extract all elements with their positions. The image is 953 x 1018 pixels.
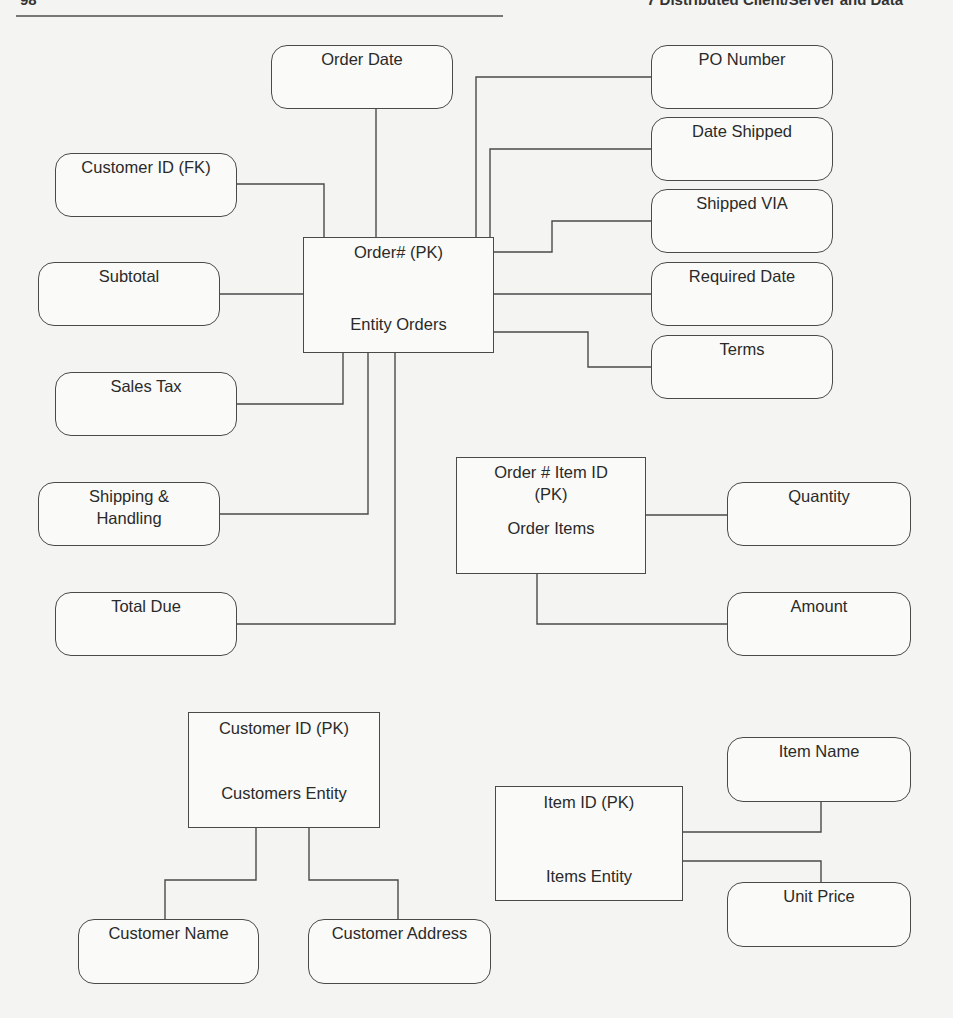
entity-key: Order# (PK) — [304, 242, 493, 262]
attribute-label: Total Due — [111, 597, 181, 615]
attribute-sales-tax[interactable]: Sales Tax — [55, 372, 237, 436]
attribute-total-due[interactable]: Total Due — [55, 592, 237, 656]
attribute-label: Sales Tax — [110, 377, 181, 395]
attribute-amount[interactable]: Amount — [727, 592, 911, 656]
connector-po-number — [476, 77, 651, 237]
attribute-date-shipped[interactable]: Date Shipped — [651, 117, 833, 181]
attribute-label: Customer Address — [332, 924, 468, 942]
attribute-label: Terms — [720, 340, 765, 358]
entity-key: Item ID (PK) — [496, 792, 682, 812]
entity-customers[interactable]: Customer ID (PK) Customers Entity — [188, 712, 380, 828]
connector-amount — [537, 573, 727, 624]
connector-terms — [493, 332, 651, 367]
attribute-unit-price[interactable]: Unit Price — [727, 882, 911, 947]
connector-customer-address — [309, 827, 398, 919]
attribute-label: Unit Price — [783, 887, 855, 905]
connector-shipped-via — [493, 221, 651, 252]
connector-total-due — [237, 352, 395, 624]
attribute-po-number[interactable]: PO Number — [651, 45, 833, 109]
attribute-label: Item Name — [779, 742, 860, 760]
entity-name: Customers Entity — [189, 783, 379, 803]
entity-orders[interactable]: Order# (PK) Entity Orders — [303, 237, 494, 353]
connector-unit-price — [682, 861, 821, 882]
attribute-label: Amount — [791, 597, 848, 615]
entity-order-items[interactable]: Order # Item ID (PK) Order Items — [456, 457, 646, 574]
attribute-required-date[interactable]: Required Date — [651, 262, 833, 326]
attribute-subtotal[interactable]: Subtotal — [38, 262, 220, 326]
attribute-label: PO Number — [698, 50, 785, 68]
entity-name: Order Items — [457, 518, 645, 538]
attribute-shipped-via[interactable]: Shipped VIA — [651, 189, 833, 253]
attribute-label: Subtotal — [99, 267, 160, 285]
attribute-label: Required Date — [689, 267, 795, 285]
connector-shipping-handling — [220, 352, 368, 514]
connector-sales-tax — [237, 352, 343, 404]
entity-key-line1: Order # Item ID — [457, 462, 645, 482]
attribute-label: Quantity — [788, 487, 849, 505]
attribute-label: Shipped VIA — [696, 194, 788, 212]
attribute-label: Order Date — [321, 50, 403, 68]
entity-key-line2: (PK) — [457, 484, 645, 504]
connector-date-shipped — [490, 149, 651, 237]
attribute-item-name[interactable]: Item Name — [727, 737, 911, 802]
entity-name: Items Entity — [496, 866, 682, 886]
connector-customer-id-fk — [237, 184, 324, 237]
attribute-label: Date Shipped — [692, 122, 792, 140]
entity-key: Customer ID (PK) — [189, 718, 379, 738]
attribute-label: Customer Name — [108, 924, 228, 942]
attribute-terms[interactable]: Terms — [651, 335, 833, 399]
entity-items[interactable]: Item ID (PK) Items Entity — [495, 786, 683, 901]
attribute-order-date[interactable]: Order Date — [271, 45, 453, 109]
connector-item-name — [682, 801, 821, 832]
attribute-label: Customer ID (FK) — [81, 158, 210, 176]
attribute-customer-address[interactable]: Customer Address — [308, 919, 491, 984]
attribute-quantity[interactable]: Quantity — [727, 482, 911, 546]
entity-name: Entity Orders — [304, 314, 493, 334]
attribute-customer-id-fk[interactable]: Customer ID (FK) — [55, 153, 237, 217]
attribute-shipping-handling[interactable]: Shipping & Handling — [38, 482, 220, 546]
attribute-customer-name[interactable]: Customer Name — [78, 919, 259, 984]
attribute-label-line2: Handling — [39, 507, 219, 529]
connector-customer-name — [165, 827, 256, 919]
attribute-label-line1: Shipping & — [39, 485, 219, 507]
